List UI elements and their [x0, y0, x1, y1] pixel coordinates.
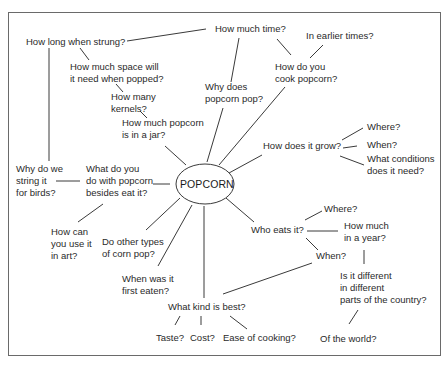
- line-center-to-other-types: [146, 198, 180, 230]
- node-how-does-it-grow: How does it grow?: [263, 140, 341, 152]
- node-what-kind-is-best: What kind is best?: [168, 301, 246, 313]
- line-kind-to-taste: [175, 316, 180, 325]
- node-grow-where: Where?: [367, 121, 400, 133]
- line-different-to-world: [349, 310, 358, 324]
- node-of-the-world: Of the world?: [320, 333, 377, 345]
- node-cook-line2: cook popcorn?: [275, 73, 337, 85]
- node-besides-line1: What do you: [86, 163, 153, 175]
- node-conditions-line2: does it need?: [367, 165, 435, 177]
- node-different-line2: in different: [340, 282, 427, 294]
- node-why-does-popcorn-pop: Why does popcorn pop?: [205, 81, 263, 105]
- node-in-earlier-times: In earlier times?: [306, 30, 374, 42]
- line-strung-to-time: [127, 29, 206, 41]
- node-ease-of-cooking: Ease of cooking?: [223, 332, 296, 344]
- node-birds-line2: string it: [16, 175, 63, 187]
- node-popcorn-in-jar: How much popcorn is in a jar?: [122, 117, 204, 141]
- node-other-types-line1: Do other types: [102, 236, 164, 248]
- node-cost: Cost?: [190, 332, 215, 344]
- node-birds-line3: for birds?: [16, 187, 63, 199]
- line-center-to-why-pop: [207, 108, 223, 162]
- node-besides-line2: do with popcorn: [86, 175, 153, 187]
- node-different-parts-of-country: Is it different in different parts of th…: [340, 270, 427, 306]
- center-node-popcorn: POPCORN: [180, 178, 234, 190]
- node-birds-line1: Why do we: [16, 163, 63, 175]
- node-per-year-line1: How much: [344, 220, 389, 232]
- line-time-to-cook: [277, 39, 291, 55]
- node-other-types-line2: of corn pop?: [102, 248, 164, 260]
- node-first-eaten-line2: first eaten?: [122, 285, 174, 297]
- node-per-year-line2: in a year?: [344, 232, 389, 244]
- line-who-to-where: [305, 211, 322, 220]
- node-how-much-space-line2: it need when popped?: [70, 73, 164, 85]
- node-how-do-you-cook: How do you cook popcorn?: [275, 61, 337, 85]
- line-center-to-who-eats: [226, 198, 254, 222]
- node-use-in-art: How can you use it in art?: [51, 226, 92, 262]
- node-why-string-for-birds: Why do we string it for birds?: [16, 163, 63, 199]
- node-how-much-in-a-year: How much in a year?: [344, 220, 389, 244]
- node-why-pop-line1: Why does: [205, 81, 263, 93]
- node-eats-when: When?: [316, 250, 346, 262]
- node-cook-line1: How do you: [275, 61, 337, 73]
- line-who-to-when: [306, 238, 318, 250]
- node-besides-line3: besides eat it?: [86, 187, 153, 199]
- node-how-many-kernels-line1: How many: [111, 91, 156, 103]
- line-center-to-grow: [229, 155, 262, 173]
- node-popcorn-in-jar-line2: is in a jar?: [122, 129, 204, 141]
- node-other-types-pop: Do other types of corn pop?: [102, 236, 164, 260]
- line-grow-to-where: [342, 128, 363, 140]
- node-what-do-you-do-besides-eat: What do you do with popcorn besides eat …: [86, 163, 153, 199]
- node-how-long-strung: How long when strung?: [26, 36, 125, 48]
- node-popcorn-in-jar-line1: How much popcorn: [122, 117, 204, 129]
- node-how-much-space-line1: How much space will: [70, 61, 164, 73]
- line-when-to-kind-best: [223, 263, 312, 294]
- line-kind-to-ease: [230, 316, 247, 329]
- node-how-many-kernels-line2: kernels?: [111, 103, 156, 115]
- node-art-line2: you use it: [51, 238, 92, 250]
- node-grow-when: When?: [367, 139, 397, 151]
- node-taste: Taste?: [156, 332, 184, 344]
- line-center-to-jar: [165, 146, 186, 165]
- line-besides-to-art: [78, 204, 103, 222]
- node-different-line3: parts of the country?: [340, 294, 427, 306]
- line-grow-to-conditions: [340, 156, 364, 165]
- line-earlier-to-cook: [310, 45, 323, 58]
- node-how-much-space: How much space will it need when popped?: [70, 61, 164, 85]
- node-how-much-time: How much time?: [215, 23, 286, 35]
- node-art-line1: How can: [51, 226, 92, 238]
- node-conditions-line1: What conditions: [367, 153, 435, 165]
- node-art-line3: in art?: [51, 250, 92, 262]
- line-time-to-why-pop: [231, 38, 239, 82]
- node-first-eaten-line1: When was it: [122, 273, 174, 285]
- node-who-eats-it: Who eats it?: [251, 224, 304, 236]
- node-when-first-eaten: When was it first eaten?: [122, 273, 174, 297]
- node-how-many-kernels: How many kernels?: [111, 91, 156, 115]
- node-eats-where: Where?: [324, 203, 357, 215]
- node-why-pop-line2: popcorn pop?: [205, 93, 263, 105]
- node-different-line1: Is it different: [340, 270, 427, 282]
- line-grow-to-when: [343, 146, 357, 148]
- line-strung-to-space: [80, 48, 89, 60]
- node-what-conditions: What conditions does it need?: [367, 153, 435, 177]
